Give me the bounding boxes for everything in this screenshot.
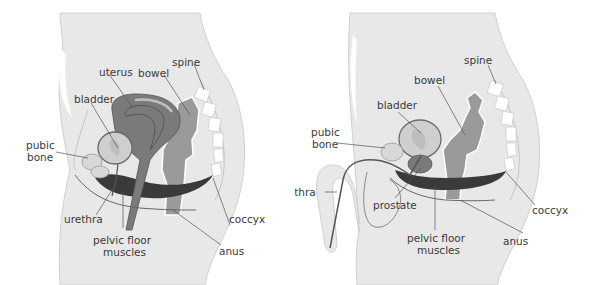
male-pelvis-diagram: spine bowel bladder pubic bone urethra p…: [295, 0, 591, 285]
label-prostate: prostate: [373, 199, 417, 211]
label-pelvic-floor-line2: muscles: [103, 246, 146, 258]
female-pubic-bone-lower: [91, 166, 109, 178]
label-pelvic-floor-line2: muscles: [417, 244, 460, 256]
label-bowel: bowel: [138, 67, 169, 79]
label-bladder: bladder: [74, 93, 115, 105]
female-pelvis-diagram: uterus bowel spine bladder pubic bone ur…: [0, 0, 295, 285]
label-pubic-bone-line2: bone: [27, 151, 53, 163]
label-bowel: bowel: [414, 74, 445, 86]
label-coccyx: coccyx: [229, 213, 265, 225]
label-bladder: bladder: [377, 99, 418, 111]
label-uterus: uterus: [99, 66, 133, 78]
label-pubic-bone-line1: pubic: [26, 139, 55, 151]
label-urethra: urethra: [64, 213, 103, 225]
label-anus: anus: [219, 245, 244, 257]
label-spine: spine: [172, 56, 200, 68]
label-urethra: urethra: [295, 186, 316, 198]
label-pubic-bone-line1: pubic: [311, 126, 340, 138]
male-pelvis-svg: spine bowel bladder pubic bone urethra p…: [295, 0, 591, 285]
label-pelvic-floor-line1: pelvic floor: [407, 232, 466, 244]
label-pubic-bone-line2: bone: [312, 138, 338, 150]
label-coccyx: coccyx: [532, 204, 568, 216]
label-spine: spine: [464, 54, 492, 66]
male-pubic-bone: [381, 143, 403, 161]
label-pelvic-floor-line1: pelvic floor: [93, 234, 152, 246]
female-pelvis-svg: uterus bowel spine bladder pubic bone ur…: [0, 0, 295, 285]
label-anus: anus: [503, 235, 528, 247]
